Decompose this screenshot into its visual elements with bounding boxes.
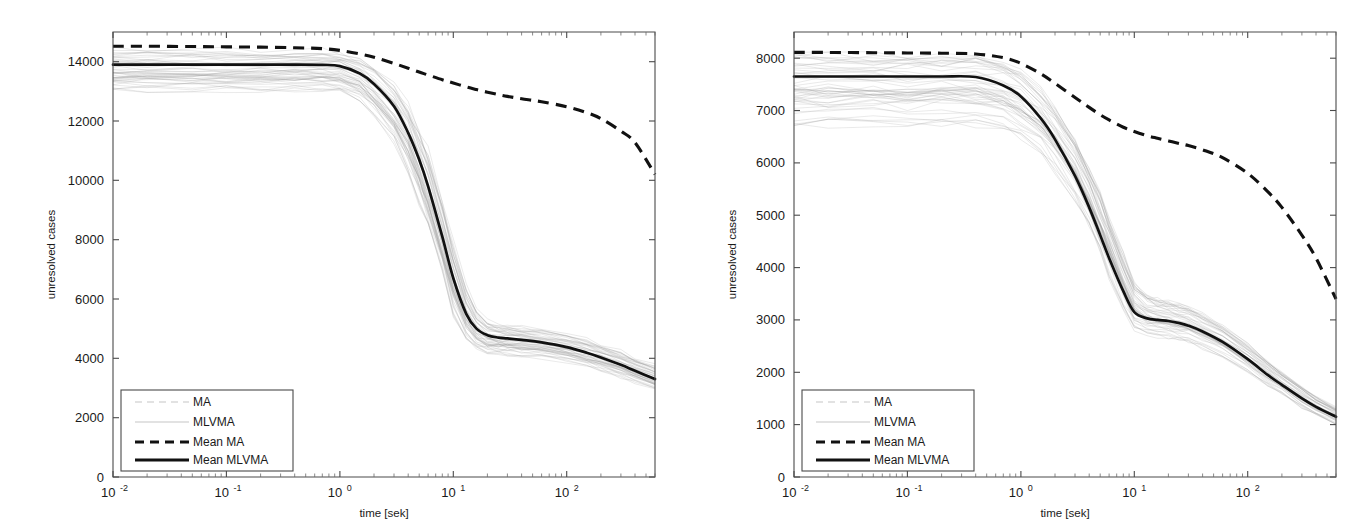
y-axis-title: unresolved cases	[45, 210, 57, 300]
ensemble-trace	[113, 70, 655, 379]
legend-label: Mean MLVMA	[874, 453, 949, 467]
x-tick-label: 10-1	[214, 483, 241, 500]
x-tick-exponent: -2	[120, 483, 128, 493]
ensemble-trace	[113, 69, 655, 379]
x-tick-label: 102	[1236, 483, 1260, 500]
legend-label: Mean MA	[193, 435, 244, 449]
y-tick-label: 6000	[75, 292, 104, 307]
x-tick-label: 101	[1122, 483, 1146, 500]
ensemble-trace	[794, 63, 1336, 411]
y-tick-label: 3000	[756, 312, 785, 327]
x-axis-title: time [sek]	[1040, 507, 1089, 519]
ensemble-trace	[113, 50, 655, 368]
x-tick-exponent: 0	[1028, 483, 1033, 493]
legend-label: MA	[874, 395, 892, 409]
ensemble-traces	[113, 47, 655, 389]
y-tick-label: 5000	[756, 208, 785, 223]
x-tick-mantissa: 10	[214, 485, 228, 500]
ensemble-trace	[113, 75, 655, 383]
x-tick-label: 10-2	[782, 483, 809, 500]
ensemble-trace	[113, 77, 655, 383]
x-tick-mantissa: 10	[441, 485, 455, 500]
x-tick-exponent: 2	[1255, 483, 1260, 493]
figure-canvas: 0200040006000800010000120001400010-210-1…	[0, 0, 1361, 525]
right-chart-svg: 01000200030004000500060007000800010-210-…	[681, 0, 1361, 525]
y-tick-label: 7000	[756, 103, 785, 118]
x-tick-mantissa: 10	[1236, 485, 1250, 500]
ensemble-trace	[113, 53, 655, 367]
x-tick-mantissa: 10	[895, 485, 909, 500]
y-tick-label: 4000	[756, 260, 785, 275]
legend-label: MLVMA	[193, 415, 235, 429]
legend: MAMLVMAMean MAMean MLVMA	[802, 390, 974, 471]
ensemble-trace	[794, 100, 1336, 421]
x-tick-label: 10-1	[895, 483, 922, 500]
legend: MAMLVMAMean MAMean MLVMA	[121, 390, 293, 471]
x-tick-exponent: 0	[347, 483, 352, 493]
ensemble-trace	[794, 119, 1336, 424]
y-tick-label: 4000	[75, 351, 104, 366]
y-tick-label: 0	[97, 470, 104, 485]
ensemble-trace	[113, 52, 655, 367]
x-axis-title: time [sek]	[359, 507, 408, 519]
x-tick-exponent: -1	[233, 483, 241, 493]
ensemble-trace	[113, 54, 655, 370]
x-tick-exponent: 2	[574, 483, 579, 493]
y-tick-label: 8000	[75, 232, 104, 247]
legend-label: MLVMA	[874, 415, 916, 429]
y-tick-label: 10000	[68, 173, 104, 188]
y-tick-label: 6000	[756, 155, 785, 170]
y-tick-label: 2000	[75, 410, 104, 425]
x-tick-exponent: -2	[801, 483, 809, 493]
x-tick-label: 101	[441, 483, 465, 500]
ensemble-trace	[794, 117, 1336, 424]
ensemble-trace	[113, 52, 655, 366]
x-tick-exponent: 1	[460, 483, 465, 493]
legend-label: Mean MA	[874, 435, 925, 449]
x-tick-mantissa: 10	[1122, 485, 1136, 500]
ensemble-trace	[113, 60, 655, 375]
x-tick-mantissa: 10	[782, 485, 796, 500]
ensemble-trace	[794, 89, 1336, 417]
legend-label: Mean MLVMA	[193, 453, 268, 467]
y-tick-label: 8000	[756, 51, 785, 66]
ensemble-trace	[113, 51, 655, 369]
y-tick-label: 2000	[756, 365, 785, 380]
ensemble-trace	[113, 72, 655, 380]
right-chart-panel: 01000200030004000500060007000800010-210-…	[681, 0, 1361, 525]
ensemble-traces	[794, 52, 1336, 425]
x-tick-mantissa: 10	[328, 485, 342, 500]
ensemble-trace	[113, 60, 655, 374]
x-tick-label: 100	[1009, 483, 1033, 500]
y-tick-label: 1000	[756, 417, 785, 432]
x-tick-label: 100	[328, 483, 352, 500]
x-tick-exponent: 1	[1141, 483, 1146, 493]
y-tick-label: 0	[778, 470, 785, 485]
x-tick-label: 102	[555, 483, 579, 500]
left-chart-panel: 0200040006000800010000120001400010-210-1…	[0, 0, 680, 525]
mean-ma-curve	[794, 52, 1336, 299]
x-tick-mantissa: 10	[1009, 485, 1023, 500]
y-axis-title: unresolved cases	[726, 210, 738, 300]
x-tick-mantissa: 10	[101, 485, 115, 500]
ensemble-trace	[113, 55, 655, 369]
x-tick-mantissa: 10	[555, 485, 569, 500]
y-tick-label: 14000	[68, 54, 104, 69]
x-tick-exponent: -1	[914, 483, 922, 493]
ensemble-trace	[113, 88, 655, 389]
ensemble-trace	[113, 71, 655, 379]
x-tick-label: 10-2	[101, 483, 128, 500]
y-tick-label: 12000	[68, 114, 104, 129]
legend-label: MA	[193, 395, 211, 409]
left-chart-svg: 0200040006000800010000120001400010-210-1…	[0, 0, 680, 525]
ensemble-trace	[794, 99, 1336, 419]
